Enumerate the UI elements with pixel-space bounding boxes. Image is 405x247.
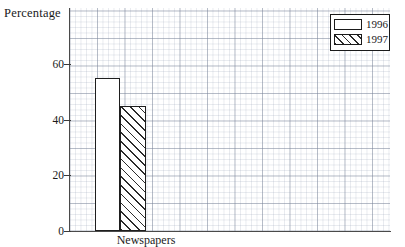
legend-label-1996: 1996 — [366, 19, 388, 30]
legend-swatch-1996-icon — [334, 19, 362, 30]
y-tick-label-40: 40 — [53, 114, 65, 126]
y-tick-60 — [64, 64, 71, 65]
legend-item-1996: 1996 — [334, 18, 386, 32]
x-category-label-newspapers: Newspapers — [70, 233, 222, 247]
y-tick-label-0: 0 — [58, 225, 64, 237]
y-axis-title: Percentage — [4, 6, 61, 21]
bar-1997-newspapers — [120, 106, 146, 231]
y-tick-40 — [64, 120, 71, 121]
y-tick-20 — [64, 175, 71, 176]
x-axis-line — [69, 231, 391, 232]
y-tick-0 — [64, 231, 71, 232]
y-tick-label-20: 20 — [53, 169, 65, 181]
bar-chart: Percentage 0 20 40 60 Newspapers 1996 19… — [0, 0, 405, 247]
bar-1996-newspapers — [95, 78, 120, 231]
legend: 1996 1997 — [330, 14, 390, 51]
y-tick-label-60: 60 — [53, 58, 65, 70]
legend-label-1997: 1997 — [366, 34, 388, 45]
legend-item-1997: 1997 — [334, 33, 386, 47]
legend-swatch-1997-icon — [334, 34, 362, 45]
